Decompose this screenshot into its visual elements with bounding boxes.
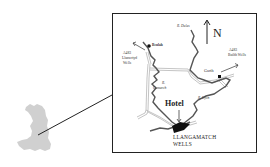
town-label-line1: LLANGAMATCH	[173, 135, 216, 140]
garth-marker	[218, 75, 221, 78]
hotel-label: Hotel	[165, 100, 184, 108]
river-irfon-label: R. Irfon	[198, 97, 209, 101]
garth-label: Garth	[204, 69, 214, 73]
map-figure: N R. Dulas Beulah A483 Llanwrtyd Wells A…	[0, 0, 270, 167]
town-label-line2: WELLS	[173, 142, 192, 147]
map-graphic	[0, 0, 270, 167]
wales-inset-shape	[17, 104, 51, 151]
river-dulas-label: R. Dulas	[177, 25, 190, 29]
connector-line	[38, 95, 112, 135]
east-road-dest: Builth Wells	[228, 54, 246, 58]
river-camarch-label: Camarch	[153, 87, 166, 91]
map-frame	[113, 14, 257, 153]
beulah-marker	[147, 44, 151, 48]
west-road-dest2: Wells	[123, 62, 131, 66]
north-label: N	[213, 27, 222, 39]
beulah-label: Beulah	[152, 44, 163, 48]
